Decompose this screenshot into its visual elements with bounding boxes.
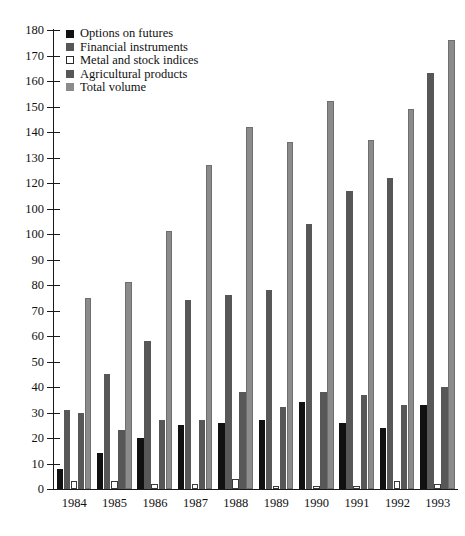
bar-metal-and-stock-indices (273, 486, 279, 489)
y-tick-label: 100 (0, 203, 44, 216)
legend-item-label: Metal and stock indices (80, 54, 198, 67)
bar-total-volume (368, 140, 374, 489)
x-axis-label: 1987 (175, 497, 215, 510)
bar-agricultural-products (78, 413, 84, 490)
y-tick-label: 140 (0, 126, 44, 139)
y-tick-label: 30 (0, 407, 44, 420)
bar-financial-instruments (144, 341, 150, 489)
y-tick-label: 180 (0, 24, 44, 37)
bar-total-volume (125, 282, 131, 489)
bar-metal-and-stock-indices (313, 486, 319, 489)
bar-options-on-futures (259, 420, 265, 489)
bar-chart: 0102030405060708090100100120130140150160… (0, 0, 465, 536)
bar-total-volume (327, 101, 333, 489)
bar-financial-instruments (387, 178, 393, 489)
bar-total-volume (85, 298, 91, 489)
x-axis-line (53, 489, 458, 490)
x-axis-label: 1992 (377, 497, 417, 510)
bar-metal-and-stock-indices (111, 481, 117, 489)
bar-metal-and-stock-indices (71, 481, 77, 489)
bar-group (175, 30, 215, 489)
bar-options-on-futures (178, 425, 184, 489)
bar-options-on-futures (299, 402, 305, 489)
bar-metal-and-stock-indices (192, 484, 198, 489)
legend-item: Agricultural products (66, 67, 198, 80)
bar-metal-and-stock-indices (394, 481, 400, 489)
bar-group (94, 30, 134, 489)
bar-financial-instruments (346, 191, 352, 489)
bar-agricultural-products (401, 405, 407, 489)
financial-swatch (66, 43, 74, 51)
legend-item-label: Total volume (80, 81, 146, 94)
bar-agricultural-products (361, 395, 367, 489)
legend-item: Financial instruments (66, 40, 198, 53)
x-axis-label: 1990 (296, 497, 336, 510)
bar-agricultural-products (441, 387, 447, 489)
bar-financial-instruments (306, 224, 312, 489)
options-swatch (66, 30, 74, 38)
bar-financial-instruments (64, 410, 70, 489)
y-tick-label: 50 (0, 356, 44, 369)
x-axis-label: 1985 (94, 497, 134, 510)
bar-group (296, 30, 336, 489)
y-tick-label: 70 (0, 305, 44, 318)
agricultural-swatch (66, 70, 74, 78)
bar-total-volume (287, 142, 293, 489)
bar-total-volume (246, 127, 252, 489)
legend-item-label: Financial instruments (80, 41, 188, 54)
bar-metal-and-stock-indices (434, 484, 440, 489)
bar-group (54, 30, 94, 489)
y-tick-label: 150 (0, 101, 44, 114)
bar-options-on-futures (97, 453, 103, 489)
bar-financial-instruments (185, 300, 191, 489)
bar-options-on-futures (420, 405, 426, 489)
bar-agricultural-products (118, 430, 124, 489)
bar-group (377, 30, 417, 489)
total-swatch (66, 83, 74, 91)
bar-metal-and-stock-indices (232, 479, 238, 489)
x-axis-label: 1984 (54, 497, 94, 510)
y-tick-label: 20 (0, 432, 44, 445)
bar-financial-instruments (427, 73, 433, 489)
bar-group (337, 30, 377, 489)
bar-group (418, 30, 458, 489)
y-tick-label: 0 (0, 483, 44, 496)
y-tick-mark (47, 489, 60, 490)
legend-item: Options on futures (66, 27, 198, 40)
bar-financial-instruments (266, 290, 272, 489)
bar-financial-instruments (104, 374, 110, 489)
bar-options-on-futures (218, 423, 224, 489)
y-tick-label: 130 (0, 152, 44, 165)
y-tick-label: 170 (0, 50, 44, 63)
x-axis-label: 1991 (337, 497, 377, 510)
legend-item-label: Agricultural products (80, 68, 187, 81)
y-tick-label: 100 (0, 228, 44, 241)
bar-agricultural-products (159, 420, 165, 489)
bar-group (256, 30, 296, 489)
bar-financial-instruments (225, 295, 231, 489)
x-axis-label: 1989 (256, 497, 296, 510)
y-tick-label: 80 (0, 279, 44, 292)
legend-item: Metal and stock indices (66, 54, 198, 67)
bar-metal-and-stock-indices (353, 486, 359, 489)
bar-options-on-futures (380, 428, 386, 489)
bar-agricultural-products (239, 392, 245, 489)
y-tick-label: 120 (0, 177, 44, 190)
bar-options-on-futures (137, 438, 143, 489)
x-axis-label: 1986 (135, 497, 175, 510)
y-tick-label: 60 (0, 330, 44, 343)
x-axis-label: 1993 (418, 497, 458, 510)
y-tick-label: 160 (0, 75, 44, 88)
bar-total-volume (206, 165, 212, 489)
bar-total-volume (448, 40, 454, 489)
x-axis-label: 1988 (216, 497, 256, 510)
metal-swatch (66, 56, 74, 64)
chart-legend: Options on futuresFinancial instrumentsM… (66, 27, 198, 94)
bar-agricultural-products (320, 392, 326, 489)
bar-group (135, 30, 175, 489)
legend-item: Total volume (66, 81, 198, 94)
bar-total-volume (166, 231, 172, 489)
bar-options-on-futures (339, 423, 345, 489)
y-tick-label: 40 (0, 381, 44, 394)
bar-agricultural-products (199, 420, 205, 489)
